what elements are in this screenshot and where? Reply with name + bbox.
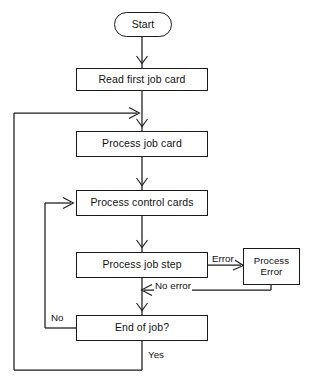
node-end-of-job[interactable]: End of job?	[76, 315, 208, 341]
node-process-control-cards[interactable]: Process control cards	[76, 190, 208, 216]
edge-label-no-error: No error	[154, 281, 192, 291]
node-process-error[interactable]: Process Error	[243, 248, 300, 285]
flowchart-canvas: Start Read first job card Process job ca…	[0, 0, 310, 392]
edge-label-yes: Yes	[147, 350, 165, 360]
node-process-job-step[interactable]: Process job step	[76, 252, 208, 278]
node-process-job-card[interactable]: Process job card	[76, 131, 208, 157]
edge-label-no: No	[50, 313, 65, 323]
node-start[interactable]: Start	[114, 12, 172, 37]
edge-label-error: Error	[211, 254, 235, 264]
node-read-first-job-card[interactable]: Read first job card	[76, 68, 208, 91]
